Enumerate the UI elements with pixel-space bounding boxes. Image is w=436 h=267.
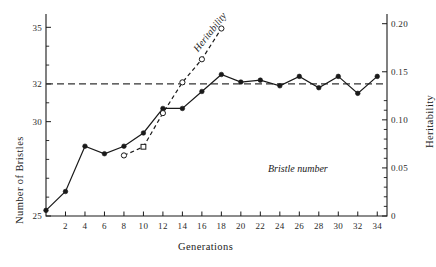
data-point-heritability [160, 111, 165, 116]
x-tick-label: 12 [158, 221, 168, 231]
data-point-bristle-number [317, 85, 322, 90]
x-tick-label: 22 [256, 221, 266, 231]
data-point-heritability [199, 57, 204, 62]
chart-figure: 2530323500.050.100.150.20246810121416182… [0, 0, 436, 267]
data-point-bristle-number [44, 208, 49, 213]
y2-tick-label: 0.20 [391, 19, 408, 29]
x-tick-label: 28 [314, 221, 324, 231]
x-tick-label: 14 [178, 221, 188, 231]
y-axis-title: Number of Bristles [14, 136, 25, 224]
y2-tick-label: 0.05 [391, 163, 408, 173]
y2-axis-title: Heritability [424, 95, 435, 148]
x-tick-label: 16 [197, 221, 207, 231]
data-point-bristle-number [336, 74, 341, 79]
y-tick-label: 32 [32, 79, 42, 89]
x-tick-label: 26 [295, 221, 305, 231]
data-point-bristle-number [355, 91, 360, 96]
data-point-heritability [121, 153, 126, 158]
data-point-bristle-number [122, 144, 127, 149]
y-tick-label: 25 [32, 211, 42, 221]
data-point-heritability [180, 80, 185, 85]
y-tick-label: 35 [32, 23, 42, 33]
x-tick-label: 24 [275, 221, 285, 231]
data-point-bristle-number [258, 78, 263, 83]
y-tick-label: 30 [32, 117, 42, 127]
x-tick-label: 20 [236, 221, 246, 231]
x-tick-label: 10 [139, 221, 149, 231]
x-tick-label: 4 [83, 221, 88, 231]
data-point-bristle-number [239, 80, 244, 85]
x-tick-label: 34 [372, 221, 382, 231]
x-tick-label: 30 [333, 221, 343, 231]
data-point-bristle-number [63, 189, 68, 194]
data-point-bristle-number [219, 72, 224, 77]
data-point-bristle-number [297, 74, 302, 79]
x-tick-label: 2 [63, 221, 68, 231]
y2-tick-label: 0.15 [391, 67, 408, 77]
axis-spines [46, 14, 387, 216]
data-point-heritability [141, 144, 146, 149]
x-tick-label: 18 [217, 221, 227, 231]
data-point-bristle-number [278, 84, 283, 89]
chart-canvas: 2530323500.050.100.150.20246810121416182… [0, 0, 436, 267]
x-tick-label: 8 [122, 221, 127, 231]
y2-tick-label: 0.10 [391, 115, 408, 125]
series-line-bristle-number [46, 74, 377, 210]
data-point-bristle-number [200, 89, 205, 94]
series-label-bristle-number: Bristle number [268, 163, 328, 174]
data-point-bristle-number [102, 151, 107, 156]
x-axis-title: Generations [178, 241, 233, 252]
data-point-bristle-number [375, 74, 380, 79]
y2-tick-label: 0 [391, 211, 396, 221]
data-point-bristle-number [141, 131, 146, 136]
x-tick-label: 32 [353, 221, 363, 231]
data-point-bristle-number [83, 144, 88, 149]
data-point-bristle-number [180, 106, 185, 111]
x-tick-label: 6 [102, 221, 107, 231]
